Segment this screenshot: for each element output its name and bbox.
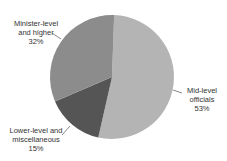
label-percent: 32% (8, 37, 64, 46)
pie-slices (50, 15, 174, 139)
label-percent: 15% (4, 144, 68, 153)
label-minister-level: Minister-level and higher 32% (8, 19, 64, 46)
label-percent: 53% (180, 104, 224, 113)
label-line: Mid-level (180, 86, 224, 95)
label-line: officials (180, 95, 224, 104)
label-line: and higher (8, 28, 64, 37)
label-line: Minister-level (8, 19, 64, 28)
label-line: miscellaneous (4, 135, 68, 144)
label-lower-level: Lower-level and miscellaneous 15% (4, 126, 68, 153)
label-line: Lower-level and (4, 126, 68, 135)
label-mid-level: Mid-level officials 53% (180, 86, 224, 113)
